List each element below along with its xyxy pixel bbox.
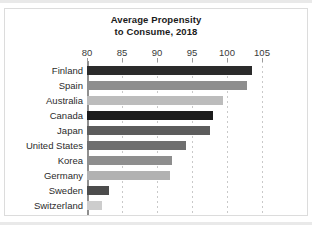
bar-row: Japan xyxy=(0,125,312,140)
bar-row: Sweden xyxy=(0,185,312,200)
tick-mark-100 xyxy=(227,58,228,62)
bar-row: Switzerland xyxy=(0,200,312,215)
category-label: Spain xyxy=(0,80,83,92)
bar xyxy=(87,126,210,135)
tick-mark-95 xyxy=(192,58,193,62)
bar xyxy=(87,156,172,165)
bar xyxy=(87,96,223,105)
bar-row: Canada xyxy=(0,110,312,125)
bar-row: Finland xyxy=(0,65,312,80)
x-tick-label: 105 xyxy=(254,47,270,58)
tick-mark-90 xyxy=(157,58,158,62)
bar xyxy=(87,141,186,150)
bar-row: Korea xyxy=(0,155,312,170)
tick-mark-80 xyxy=(87,58,88,62)
category-label: Korea xyxy=(0,155,83,167)
bar xyxy=(87,81,247,90)
tick-mark-105 xyxy=(262,58,263,62)
bar-row: Germany xyxy=(0,170,312,185)
category-label: Switzerland xyxy=(0,200,83,212)
x-tick-label: 90 xyxy=(152,47,163,58)
category-label: Finland xyxy=(0,65,83,77)
bar xyxy=(87,186,109,195)
category-label: Sweden xyxy=(0,185,83,197)
chart-figure: Average Propensity to Consume, 2018 8085… xyxy=(0,0,312,225)
x-tick-label: 100 xyxy=(219,47,235,58)
category-label: Australia xyxy=(0,95,83,107)
bar-row: Spain xyxy=(0,80,312,95)
tick-mark-85 xyxy=(122,58,123,62)
category-label: Germany xyxy=(0,170,83,182)
bar-row: Australia xyxy=(0,95,312,110)
x-tick-label: 95 xyxy=(187,47,198,58)
bar-row: United States xyxy=(0,140,312,155)
bar xyxy=(87,66,252,75)
category-label: Japan xyxy=(0,125,83,137)
bar xyxy=(87,111,213,120)
bar xyxy=(87,201,102,210)
x-tick-label: 85 xyxy=(117,47,128,58)
category-label: United States xyxy=(0,140,83,152)
category-label: Canada xyxy=(0,110,83,122)
x-tick-label: 80 xyxy=(82,47,93,58)
bar xyxy=(87,171,170,180)
plot-area: 80859095100105 FinlandSpainAustraliaCana… xyxy=(0,3,312,225)
